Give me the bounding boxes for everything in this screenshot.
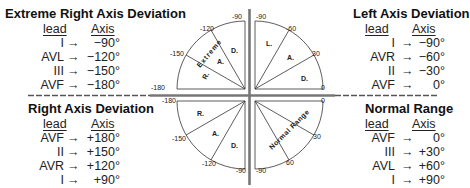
arrow-icon: → (67, 145, 80, 159)
sector-tr-a: A. (287, 54, 294, 61)
sector-bl-r: R. (197, 110, 204, 117)
axis-value: +90° (94, 173, 120, 187)
lead-name: III (54, 64, 64, 78)
label-bl-150: -150 (172, 135, 186, 142)
table-row: II → +150° (0, 145, 140, 160)
label-br-90: -90 (256, 167, 266, 174)
lead-name: AVF (41, 131, 64, 145)
arrow-icon: → (401, 78, 414, 92)
arrow-icon: → (67, 50, 80, 64)
sector-bl-a: A. (212, 130, 219, 137)
arrow-icon: → (401, 159, 414, 173)
col-head-lead: lead (365, 117, 389, 131)
label-br-30: 30 (313, 133, 321, 140)
table-row: III → +30° (340, 145, 453, 160)
table-row: AVL → −120° (0, 50, 140, 65)
col-head-axis: Axis (91, 117, 115, 131)
label-tl-90: -90 (232, 13, 242, 20)
lead-name: II (388, 64, 395, 78)
col-head-axis: Axis (412, 22, 436, 36)
arrow-icon: → (67, 159, 80, 173)
label-bl-180: -180 (162, 97, 176, 104)
col-head-lead: lead (365, 22, 389, 36)
lead-name: I (392, 36, 395, 50)
col-head-lead: lead (43, 22, 67, 36)
label-br-0: 0 (321, 97, 325, 104)
lead-name: I (61, 36, 64, 50)
lead-name: AVL (41, 50, 64, 64)
arrow-icon: → (401, 173, 414, 187)
lead-name: II (57, 145, 64, 159)
axis-value: 0° (433, 78, 445, 92)
label-tr-0: 0 (321, 84, 325, 91)
arrow-icon: → (67, 78, 80, 92)
axis-value: +180° (87, 131, 120, 145)
arrow-icon: → (401, 131, 414, 145)
label-tr-30: 30 (312, 50, 320, 57)
lead-name: AVL (372, 159, 395, 173)
label-tl-150: -150 (170, 50, 184, 57)
col-head-axis: Axis (412, 117, 436, 131)
panel-title: Extreme Right Axis Deviation (5, 6, 186, 21)
lead-name: I (392, 173, 395, 187)
label-tl-180: -180 (151, 84, 165, 91)
table-row: I → +90° (340, 173, 453, 188)
sector-tl-d: D. (231, 47, 238, 54)
axis-value: +30° (419, 145, 445, 159)
axis-value: +150° (87, 145, 120, 159)
lead-name: AVR (370, 50, 395, 64)
arrow-icon: → (67, 173, 80, 187)
panel-title: Left Axis Deviation (353, 6, 470, 21)
arrow-icon: → (67, 64, 80, 78)
arrow-icon: → (401, 36, 414, 50)
sector-tr-l: L. (266, 40, 272, 47)
lead-name: AVF (41, 78, 64, 92)
col-head-axis: Axis (91, 22, 115, 36)
axis-value: +90° (419, 173, 445, 187)
table-row: AVR → −60° (340, 50, 453, 65)
quadrant-bottom-left (177, 101, 245, 169)
col-head-lead: lead (43, 117, 67, 131)
table-row: AVF → −180° (0, 78, 140, 93)
panel-title: Right Axis Deviation (28, 101, 154, 116)
arrow-icon: → (401, 145, 414, 159)
sector-tl-a: A. (217, 58, 224, 65)
label-tr-90: -90 (256, 13, 266, 20)
table-row: I → −90° (0, 36, 140, 51)
arrow-icon: → (67, 131, 80, 145)
lead-name: AVF (372, 78, 395, 92)
table-row: III → −150° (0, 64, 140, 79)
table-row: AVF → +180° (0, 131, 140, 146)
label-tl-120: -120 (200, 25, 214, 32)
table-row: I → −90° (340, 36, 453, 51)
sector-bl-d: D. (231, 142, 238, 149)
axis-value: −120° (87, 50, 120, 64)
axis-value: 0° (433, 131, 445, 145)
table-row: II → −30° (340, 64, 453, 79)
sector-tr-d: D. (301, 75, 308, 82)
axis-value: −90° (94, 36, 120, 50)
axis-value: −60° (419, 50, 445, 64)
sector-tl-r: R. (201, 71, 211, 81)
lead-name: III (385, 145, 395, 159)
lead-name: AVR (39, 159, 64, 173)
label-bl-120: -120 (202, 160, 216, 167)
arrow-icon: → (67, 36, 80, 50)
table-row: AVL → +60° (340, 159, 453, 174)
table-row: AVR → +120° (0, 159, 140, 174)
lead-name: AVF (372, 131, 395, 145)
label-bl-90: -90 (236, 167, 246, 174)
label-br-60: 60 (286, 159, 294, 166)
axis-value: −90° (419, 36, 445, 50)
table-row: I → +90° (0, 173, 140, 188)
table-row: AVF → 0° (340, 131, 453, 146)
label-tr-60: -60 (286, 25, 296, 32)
arrow-icon: → (401, 64, 414, 78)
axis-value: −180° (87, 78, 120, 92)
table-row: AVF → 0° (340, 78, 453, 93)
axis-value: −30° (419, 64, 445, 78)
lead-name: I (61, 173, 64, 187)
panel-title: Normal Range (365, 101, 453, 116)
axis-value: −150° (87, 64, 120, 78)
axis-value: +60° (419, 159, 445, 173)
